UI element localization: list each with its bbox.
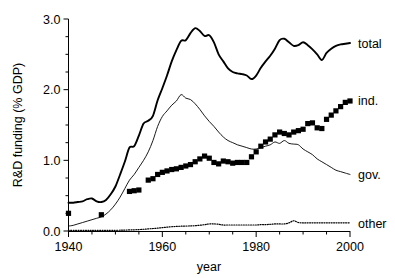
series-line: [69, 28, 351, 203]
data-marker: [155, 172, 160, 177]
data-marker: [338, 104, 343, 109]
data-marker: [310, 120, 315, 125]
data-marker: [268, 137, 273, 142]
data-marker: [329, 113, 334, 118]
data-marker: [174, 166, 179, 171]
series-label-other: other: [358, 217, 387, 231]
data-marker: [286, 132, 291, 137]
data-marker: [235, 160, 240, 165]
series-other: [69, 221, 351, 231]
data-marker: [160, 170, 165, 175]
data-marker: [127, 189, 132, 194]
data-marker: [239, 160, 244, 165]
data-marker: [179, 165, 184, 170]
x-tick-label: 1940: [55, 240, 83, 254]
y-tick-label: 0.0: [43, 225, 60, 239]
data-marker: [146, 178, 151, 183]
data-marker: [263, 139, 268, 144]
data-marker: [221, 158, 226, 163]
data-marker: [272, 132, 277, 137]
data-marker: [319, 126, 324, 131]
data-marker: [207, 156, 212, 161]
data-marker: [99, 212, 104, 217]
data-marker: [347, 98, 352, 103]
y-axis-tick-labels: 0.01.02.03.0: [43, 13, 60, 239]
data-marker: [249, 154, 254, 159]
data-marker: [277, 129, 282, 134]
data-marker: [211, 160, 216, 165]
y-tick-label: 1.0: [43, 154, 60, 168]
data-marker: [244, 160, 249, 165]
data-marker: [254, 149, 259, 154]
y-axis-ticks: [64, 19, 69, 231]
data-marker: [296, 128, 301, 133]
data-marker: [202, 153, 207, 158]
data-marker: [315, 125, 320, 130]
series-line: [69, 221, 351, 231]
series-ind: [66, 98, 353, 217]
data-marker: [225, 159, 230, 164]
x-tick-label: 1960: [148, 240, 176, 254]
data-marker: [136, 187, 141, 192]
data-marker: [66, 211, 71, 216]
data-marker: [197, 156, 202, 161]
y-axis-title: R&D funding (% GDP): [11, 63, 25, 187]
data-marker: [258, 144, 263, 149]
data-marker: [164, 168, 169, 173]
y-tick-label: 3.0: [43, 13, 60, 27]
series-total: [69, 28, 351, 203]
series-label-gov: gov.: [358, 168, 381, 182]
data-marker: [193, 159, 198, 164]
x-axis-title: year: [197, 260, 221, 274]
data-series-layer: [66, 28, 353, 230]
data-marker: [188, 162, 193, 167]
data-marker: [333, 108, 338, 113]
series-label-total: total: [358, 37, 382, 51]
rd-funding-chart: 0.01.02.03.0 1940196019802000 totalgov.i…: [0, 0, 395, 278]
data-marker: [150, 176, 155, 181]
data-marker: [300, 127, 305, 132]
y-tick-label: 2.0: [43, 83, 60, 97]
data-marker: [305, 121, 310, 126]
series-labels-layer: totalgov.ind.other: [358, 37, 387, 231]
data-marker: [343, 100, 348, 105]
x-tick-label: 1980: [242, 240, 270, 254]
x-axis-tick-labels: 1940196019802000: [55, 240, 364, 254]
data-marker: [183, 163, 188, 168]
x-tick-label: 2000: [336, 240, 364, 254]
data-marker: [169, 167, 174, 172]
data-marker: [324, 117, 329, 122]
data-marker: [216, 161, 221, 166]
data-marker: [282, 131, 287, 136]
series-label-ind: ind.: [358, 94, 378, 108]
chart-canvas: 0.01.02.03.0 1940196019802000 totalgov.i…: [0, 0, 395, 278]
data-marker: [230, 161, 235, 166]
data-marker: [132, 188, 137, 193]
data-marker: [291, 129, 296, 134]
